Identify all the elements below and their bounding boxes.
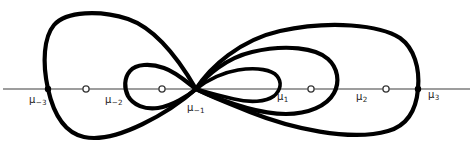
label-mu-2-base: μ — [356, 91, 363, 102]
left-outer-loop-path — [45, 13, 196, 138]
trajectory-curves — [45, 13, 419, 138]
label-mu-1: μ1 — [277, 92, 288, 102]
label-mu-minus-3-sub: −3 — [36, 98, 47, 107]
label-mu-3: μ3 — [428, 90, 439, 100]
label-mu-minus-2: μ−2 — [105, 95, 123, 105]
label-mu-2-sub: 2 — [363, 95, 368, 104]
marker-open-left-inner — [159, 86, 165, 92]
label-mu-minus-3: μ−3 — [29, 95, 47, 105]
label-mu-3-base: μ — [428, 89, 435, 100]
label-mu-3-sub: 3 — [435, 93, 440, 102]
label-mu-minus-2-base: μ — [105, 94, 112, 105]
label-mu-minus-1: μ−1 — [187, 103, 205, 113]
figure-canvas: μ−3 μ−2 μ−1 μ1 μ2 μ3 — [0, 0, 473, 147]
right-outer-loop-path — [196, 25, 418, 135]
label-mu-1-base: μ — [277, 91, 284, 102]
marker-mu-3 — [415, 86, 421, 92]
label-mu-2: μ2 — [356, 92, 367, 102]
marker-open-right-outer — [383, 86, 389, 92]
label-mu-minus-1-base: μ — [187, 102, 194, 113]
label-mu-minus-3-base: μ — [29, 94, 36, 105]
label-mu-minus-1-sub: −1 — [194, 106, 205, 115]
label-mu-1-sub: 1 — [284, 95, 289, 104]
marker-open-left-outer — [83, 86, 89, 92]
marker-open-right-inner — [308, 86, 314, 92]
lemniscate-diagram — [0, 0, 473, 147]
label-mu-minus-2-sub: −2 — [112, 98, 123, 107]
marker-mu-minus-3 — [45, 86, 51, 92]
right-middle-loop-path — [196, 48, 337, 114]
